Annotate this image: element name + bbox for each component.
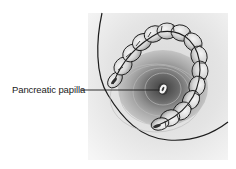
papilla-orifice xyxy=(158,83,168,95)
illustration: Pancreatic papilla xyxy=(0,0,236,169)
label-pancreatic-papilla: Pancreatic papilla xyxy=(12,84,85,95)
